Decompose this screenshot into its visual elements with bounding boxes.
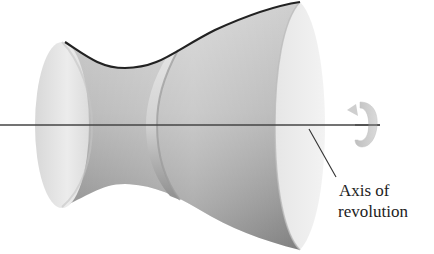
axis-label-line1: Axis of: [339, 181, 390, 201]
surface-of-revolution-figure: Axis of revolution: [0, 0, 434, 254]
axis-label-line2: revolution: [338, 202, 408, 222]
solid-body-sheen: [62, 2, 300, 250]
